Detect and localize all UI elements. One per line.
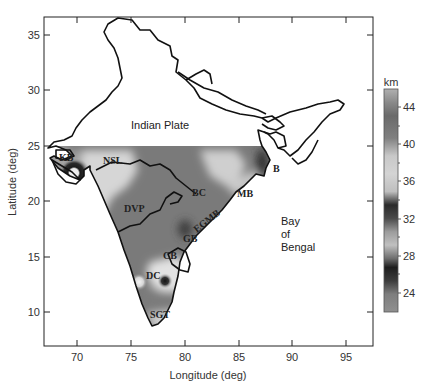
- region-label-cb: CB: [163, 250, 177, 261]
- x-tick-80: 80: [179, 351, 191, 363]
- x-axis-title: Longitude (deg): [169, 369, 246, 381]
- colorbar-gradient: [384, 89, 398, 312]
- region-label-dvp: DVP: [124, 203, 145, 214]
- x-tick-labels: 70 75 80 85 90 95: [71, 351, 352, 363]
- y-tick-20: 20: [28, 195, 40, 207]
- y-tick-15: 15: [28, 251, 40, 263]
- colorbar-tick-28: 28: [403, 250, 415, 262]
- region-label-nsl: NSL: [103, 155, 123, 166]
- x-tick-85: 85: [233, 351, 245, 363]
- region-label-dc: DC: [146, 270, 160, 281]
- colorbar-tick-24: 24: [403, 287, 415, 299]
- bay-of-bengal-label-line3: Bengal: [281, 241, 315, 253]
- colorbar-unit-label: km: [384, 76, 399, 88]
- x-tick-95: 95: [340, 351, 352, 363]
- colorbar: km 44 40 36 32 28 24: [384, 76, 416, 312]
- colorbar-tick-40: 40: [403, 138, 415, 150]
- y-tick-35: 35: [28, 29, 40, 41]
- colorbar-tick-44: 44: [403, 101, 415, 113]
- region-label-b: B: [273, 163, 280, 174]
- region-label-sgt: SGT: [150, 309, 170, 320]
- y-tick-labels: 35 30 25 20 15 10: [28, 29, 40, 318]
- colorbar-tick-36: 36: [403, 175, 415, 187]
- indian-plate-label: Indian Plate: [131, 119, 189, 131]
- x-tick-75: 75: [125, 351, 137, 363]
- y-tick-25: 25: [28, 140, 40, 152]
- region-label-bc: BC: [192, 187, 206, 198]
- y-tick-10: 10: [28, 306, 40, 318]
- y-axis-title: Latitude (deg): [6, 148, 18, 216]
- region-label-gb: GB: [183, 233, 198, 244]
- region-label-mb: MB: [237, 188, 253, 199]
- region-label-kb: KB: [59, 152, 74, 163]
- y-tick-30: 30: [28, 84, 40, 96]
- bay-of-bengal-label-line1: Bay: [281, 215, 300, 227]
- bay-of-bengal-label-line2: of: [281, 228, 291, 240]
- x-tick-70: 70: [71, 351, 83, 363]
- colorbar-tick-32: 32: [403, 213, 415, 225]
- x-tick-90: 90: [286, 351, 298, 363]
- crustal-thickness-map-figure: KB NSL DVP BC MB EGMB GB CB DC SGT B Ind…: [0, 0, 425, 385]
